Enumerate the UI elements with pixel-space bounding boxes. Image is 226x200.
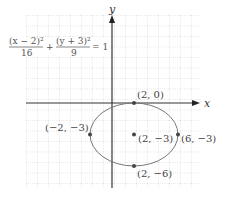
svg-text:9: 9 — [71, 48, 77, 58]
label-2-neg6: (2, −6) — [137, 168, 172, 179]
ellipse-equation: (x − 2)² 16 + (y + 3)² 9 = 1 — [6, 36, 108, 58]
label-6-neg3: (6, −3) — [181, 133, 216, 144]
svg-text:(y + 3)²: (y + 3)² — [56, 36, 91, 46]
svg-text:+: + — [46, 42, 54, 52]
svg-text:(x − 2)²: (x − 2)² — [9, 36, 44, 46]
point-neg2-neg3 — [88, 133, 92, 137]
label-2-0: (2, 0) — [137, 89, 164, 100]
svg-text:= 1: = 1 — [92, 42, 108, 52]
point-6-neg3 — [176, 133, 180, 137]
point-2-0 — [132, 101, 136, 105]
x-axis-label: x — [204, 97, 211, 110]
svg-text:16: 16 — [21, 48, 33, 58]
label-neg2-neg3: (−2, −3) — [45, 122, 89, 133]
label-center: (2, −3) — [138, 133, 173, 144]
ellipse-graph: x y (2, 0) (−2, −3) (2, −3) (6, −3) (2, … — [0, 0, 226, 200]
y-axis-label: y — [108, 3, 116, 16]
point-center — [132, 133, 136, 137]
point-2-neg6 — [132, 164, 136, 168]
